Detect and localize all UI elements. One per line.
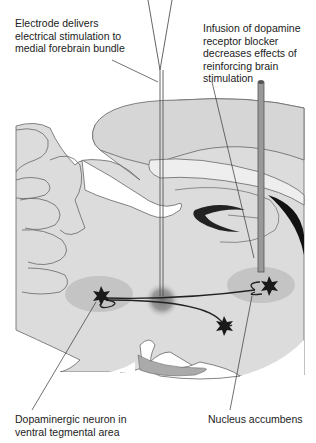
infusion-label: Infusion of dopamine receptor blocker de…: [203, 22, 300, 85]
nacc-label: Nucleus accumbens: [208, 413, 303, 426]
cannula: [258, 80, 264, 272]
electrode-label: Electrode delivers electrical stimulatio…: [15, 17, 125, 55]
vta-label: Dopaminergic neuron in ventral tegmental…: [15, 413, 126, 438]
stimulation-site: [144, 282, 180, 318]
